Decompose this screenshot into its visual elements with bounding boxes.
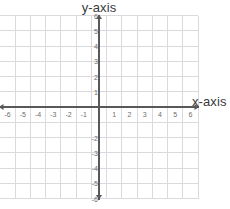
x-tick-label: -2 (65, 111, 71, 118)
x-tick-label: -3 (50, 111, 56, 118)
x-tick-label: 5 (173, 111, 177, 118)
axis-lines (0, 15, 199, 200)
x-axis-arrow-left (0, 104, 3, 110)
y-tick-label: 4 (90, 43, 98, 50)
x-tick-label: -5 (20, 111, 26, 118)
y-tick-label: -5 (90, 180, 98, 187)
y-tick-label: -3 (90, 149, 98, 156)
y-tick-label: -6 (90, 195, 98, 202)
x-tick-label: 2 (128, 111, 132, 118)
y-tick-label: 3 (90, 58, 98, 65)
x-axis-title: x-axis (192, 95, 227, 108)
x-tick-label: -4 (35, 111, 41, 118)
y-tick-label: -4 (90, 165, 98, 172)
x-tick-label: 6 (189, 111, 193, 118)
y-tick-label: -2 (90, 134, 98, 141)
y-tick-label: 1 (90, 88, 98, 95)
coordinate-plane-figure: y-axis x-axis -6-5-4-3-2-1123456654321-2… (0, 0, 230, 209)
y-tick-label: 2 (90, 73, 98, 80)
y-tick-label: 6 (90, 12, 98, 19)
y-axis-title: y-axis (82, 1, 117, 14)
x-tick-label: 3 (143, 111, 147, 118)
x-tick-label: 1 (112, 111, 116, 118)
x-tick-label: -1 (81, 111, 87, 118)
x-tick-label: -6 (4, 111, 10, 118)
y-tick-label: 5 (90, 27, 98, 34)
x-tick-label: 4 (158, 111, 162, 118)
